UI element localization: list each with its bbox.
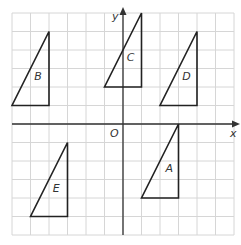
x-axis-label: x bbox=[229, 127, 237, 140]
triangle-label: C bbox=[127, 51, 135, 64]
triangle-label: E bbox=[53, 182, 60, 195]
origin-label: O bbox=[110, 127, 119, 140]
triangle-label: B bbox=[34, 70, 42, 83]
triangle-label: D bbox=[182, 70, 190, 83]
y-axis-label: y bbox=[111, 10, 119, 23]
coordinate-diagram: x y O ABCDE bbox=[0, 0, 241, 245]
triangle-label: A bbox=[165, 162, 174, 175]
axes: x y O bbox=[12, 7, 240, 235]
y-axis-arrow-icon bbox=[120, 7, 127, 15]
